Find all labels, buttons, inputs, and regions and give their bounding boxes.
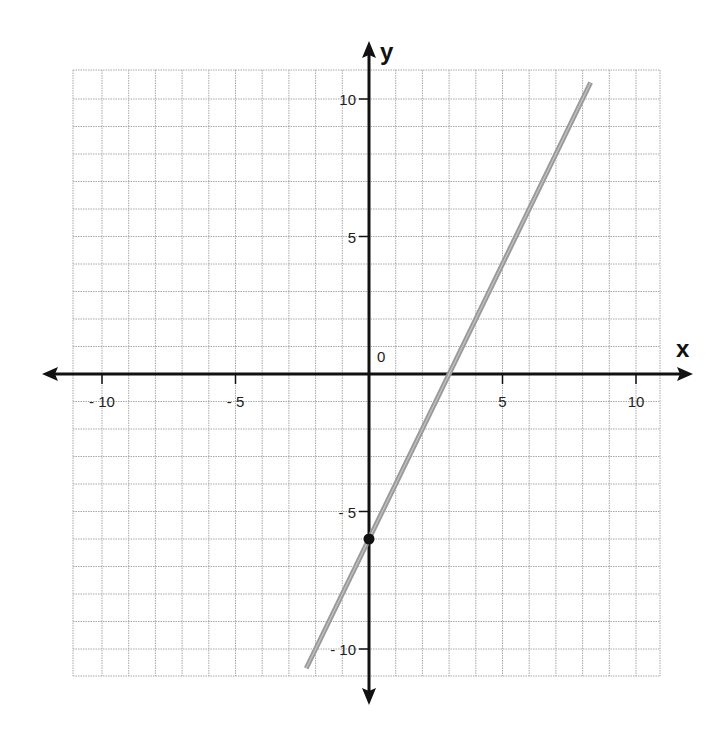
x-tick-label: - 5 — [227, 393, 245, 410]
coordinate-plane: - 10- 5510105- 5- 10 x y 0 — [0, 0, 720, 737]
y-tick-label: 10 — [339, 91, 356, 108]
axes — [42, 41, 693, 705]
x-axis-label: x — [676, 335, 690, 362]
y-axis-label: y — [380, 38, 394, 65]
plotted-points — [364, 534, 375, 545]
y-tick-label: 5 — [348, 229, 356, 246]
y-tick-label: - 5 — [338, 504, 356, 521]
x-tick-label: - 10 — [89, 393, 115, 410]
origin-label: 0 — [377, 348, 385, 365]
y-tick-label: - 10 — [330, 641, 356, 658]
x-tick-label: 5 — [498, 393, 506, 410]
y-intercept-point — [364, 534, 375, 545]
x-tick-label: 10 — [628, 393, 645, 410]
